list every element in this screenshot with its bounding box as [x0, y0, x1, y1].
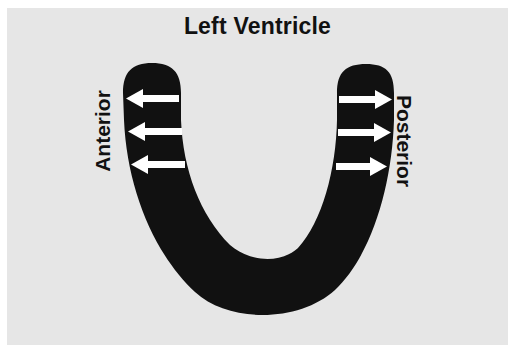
- anterior-label: Anterior: [92, 90, 113, 172]
- posterior-label: Posterior: [394, 95, 415, 187]
- left-ventricle-diagram: [0, 0, 515, 354]
